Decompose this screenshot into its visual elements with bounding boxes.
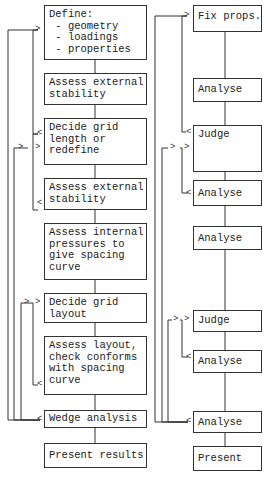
assess-external-stability-box: Assess external stability — [44, 73, 147, 105]
analyse-5-box: Analyse — [193, 411, 262, 433]
arrow-out-marker: < — [37, 199, 42, 208]
define-box: Define: - geometry - loadings - properti… — [44, 5, 147, 60]
arrow-in-marker: > — [18, 143, 23, 152]
arrow-in-marker: > — [184, 143, 189, 152]
decide-grid-layout-box: Decide grid layout — [44, 293, 147, 323]
decide-grid-length-box: Decide grid length or redefine — [44, 118, 147, 165]
assess-internal-pressures-box: Assess internal pressures to give spacin… — [44, 223, 147, 280]
assess-external-stability-2-box: Assess external stability — [44, 178, 147, 210]
judge-2-box: Judge — [193, 310, 262, 332]
judge-1-box: Judge — [193, 125, 262, 172]
fix-props-box: Fix props. — [193, 5, 262, 32]
analyse-3-box: Analyse — [193, 226, 262, 250]
arrow-in-marker: > — [170, 143, 175, 152]
present-box: Present — [193, 446, 262, 471]
arrow-out-marker: < — [37, 129, 42, 138]
arrow-in-marker: > — [35, 143, 40, 152]
wedge-analysis-box: Wedge analysis — [44, 410, 147, 428]
arrow-in-marker: > — [35, 25, 40, 34]
analyse-4-box: Analyse — [193, 350, 262, 373]
arrow-in-marker: > — [184, 11, 189, 20]
arrow-out-marker: < — [186, 189, 191, 198]
arrow-out-marker: < — [186, 128, 191, 137]
analyse-2-box: Analyse — [193, 180, 262, 206]
present-results-box: Present results — [44, 443, 147, 468]
arrow-in-marker: > — [35, 298, 40, 307]
assess-layout-box: Assess layout, check conforms with spaci… — [44, 336, 147, 395]
arrow-out-marker: < — [186, 417, 191, 426]
arrow-in-marker: > — [173, 315, 178, 324]
arrow-in-marker: > — [24, 298, 29, 307]
arrow-out-marker: < — [37, 380, 42, 389]
arrow-in-marker: > — [184, 315, 189, 324]
arrow-out-marker: < — [186, 353, 191, 362]
arrow-out-marker: < — [37, 415, 42, 424]
analyse-1-box: Analyse — [193, 78, 262, 102]
